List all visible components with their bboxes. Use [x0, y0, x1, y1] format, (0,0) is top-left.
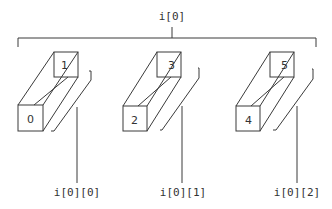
sub-array-1: 3 2 i[0][1] — [123, 52, 206, 199]
sub-array-2: 5 4 i[0][2] — [236, 52, 320, 199]
sub-array-label: i[0][1] — [160, 186, 206, 199]
array-label-i0: i[0] — [159, 10, 186, 23]
sub-array-label: i[0][2] — [274, 186, 320, 199]
front-cell-label: 2 — [131, 114, 138, 127]
back-cell-label: 5 — [281, 59, 288, 72]
back-cell-label: 1 — [61, 59, 68, 72]
inner-bracket — [51, 71, 91, 131]
front-cell-label: 4 — [245, 114, 252, 127]
array-diagram: i[0] 1 0 i[0][0] 3 — [0, 0, 332, 209]
sub-array-0: 1 0 i[0][0] — [18, 52, 100, 199]
sub-array-label: i[0][0] — [54, 186, 100, 199]
top-bracket — [18, 27, 316, 47]
front-cell-label: 0 — [27, 113, 34, 126]
back-cell-label: 3 — [168, 59, 175, 72]
